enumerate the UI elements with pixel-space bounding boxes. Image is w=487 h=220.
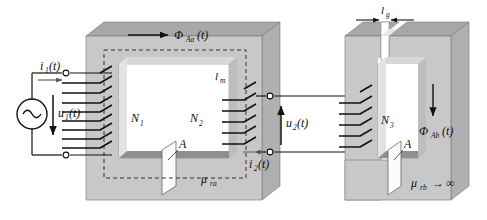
current-secondary-label-base: i <box>249 157 252 171</box>
current-primary-label-arg: (t) <box>49 59 60 73</box>
voltage-primary-label-base: u <box>58 106 64 120</box>
figure-canvas: Φ Aa (t) l m N 1 N 2 A μ ra <box>0 0 487 220</box>
gap-length-label-sub: g <box>386 10 390 19</box>
core-a-area-patch <box>162 141 176 195</box>
flux-core-a-label-arg: (t) <box>197 28 208 42</box>
core-a-window-bottom-shelf <box>119 151 237 158</box>
voltage-secondary-label-arg: (t) <box>297 116 308 130</box>
turns-tertiary-label-sub: 3 <box>389 121 394 130</box>
permeability-a-label-sub: ra <box>210 179 217 188</box>
core-a <box>86 22 280 200</box>
terminal-primary-top <box>63 70 69 76</box>
mean-path-length-label-base: l <box>215 70 218 82</box>
turns-primary-label-base: N <box>130 111 140 125</box>
permeability-b-arrow-glyph: → <box>432 176 444 190</box>
area-core-a-label: A <box>178 137 187 151</box>
core-b-window-left-depth <box>378 57 386 158</box>
turns-secondary-label-base: N <box>189 111 199 125</box>
magnetic-circuit-figure: Φ Aa (t) l m N 1 N 2 A μ ra <box>0 0 487 220</box>
current-secondary-label-arg: (t) <box>258 157 269 171</box>
mean-path-length-label-sub: m <box>220 76 226 85</box>
voltage-primary-label-arg: (t) <box>69 106 80 120</box>
flux-core-b-label-arg: (t) <box>442 124 453 138</box>
core-b-air-gap <box>381 22 389 60</box>
voltage-secondary-label-base: u <box>286 116 292 130</box>
area-core-b-label: A <box>403 137 412 151</box>
core-b-right-face <box>451 22 469 200</box>
permeability-b-label-sub: rb <box>420 183 427 192</box>
core-a-window-left-depth <box>119 57 127 158</box>
permeability-b-limit-glyph: ∞ <box>446 176 455 190</box>
core-b-area-patch <box>388 141 401 195</box>
core-a-window-right-depth <box>229 57 237 158</box>
turns-secondary-label-sub: 2 <box>199 119 203 128</box>
terminal-secondary-top <box>267 93 273 99</box>
core-a-window-top-depth <box>119 57 237 64</box>
terminal-primary-bottom <box>63 152 69 158</box>
flux-core-b-label-sub: Ab <box>430 131 440 140</box>
turns-tertiary-label-base: N <box>380 113 390 127</box>
permeability-b-label-base: μ <box>410 176 417 190</box>
terminal-secondary-bottom <box>267 149 273 155</box>
current-primary-label-base: i <box>40 59 43 73</box>
flux-core-b-label-base: Φ <box>419 124 428 138</box>
turns-primary-label-sub: 1 <box>140 119 144 128</box>
core-b-window-right-depth <box>418 57 426 158</box>
flux-core-a-label-sub: Aa <box>185 35 195 44</box>
core-a-right-face <box>262 22 280 200</box>
permeability-a-label-base: μ <box>200 172 207 186</box>
flux-core-a-label-base: Φ <box>174 28 183 42</box>
gap-length-label-base: l <box>381 4 384 16</box>
